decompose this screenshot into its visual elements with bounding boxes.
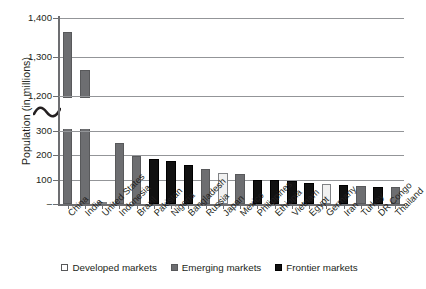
- legend-swatch-emerging-icon: [171, 264, 178, 271]
- x-axis-tick: [292, 205, 293, 209]
- x-axis-tick: [171, 205, 172, 209]
- chart-legend: Developed marketsEmerging marketsFrontie…: [0, 262, 419, 273]
- legend-label: Emerging markets: [182, 262, 262, 273]
- x-axis-tick: [188, 205, 189, 209]
- x-axis-tick: [326, 205, 327, 209]
- axis-break-squiggle: [33, 105, 61, 119]
- axis-break-gap: [59, 98, 404, 129]
- bar-upper-segment: [63, 32, 73, 98]
- legend-item-frontier[interactable]: Frontier markets: [275, 262, 357, 273]
- x-axis-tick: [275, 205, 276, 209]
- x-axis-tick: [223, 205, 224, 209]
- bar-upper-segment: [80, 70, 90, 98]
- y-axis-line: [58, 16, 60, 206]
- legend-item-developed[interactable]: Developed markets: [61, 262, 156, 273]
- x-axis-tick: [68, 205, 69, 209]
- x-axis-tick: [257, 205, 258, 209]
- x-axis-tick: [154, 205, 155, 209]
- legend-label: Frontier markets: [286, 262, 357, 273]
- gridline: [59, 131, 404, 132]
- x-axis-tick: [395, 205, 396, 209]
- x-axis-tick: [378, 205, 379, 209]
- x-axis-tick: [344, 205, 345, 209]
- gridline: [59, 96, 404, 97]
- legend-swatch-developed-icon: [61, 264, 68, 271]
- x-axis-tick: [206, 205, 207, 209]
- x-axis-tick: [119, 205, 120, 209]
- legend-swatch-frontier-icon: [275, 264, 282, 271]
- legend-item-emerging[interactable]: Emerging markets: [171, 262, 262, 273]
- x-axis-tick: [240, 205, 241, 209]
- x-axis-tick: [85, 205, 86, 209]
- x-axis-tick: [137, 205, 138, 209]
- legend-label: Developed markets: [72, 262, 156, 273]
- x-axis-tick: [102, 205, 103, 209]
- x-axis-tick: [309, 205, 310, 209]
- x-axis-tick: [361, 205, 362, 209]
